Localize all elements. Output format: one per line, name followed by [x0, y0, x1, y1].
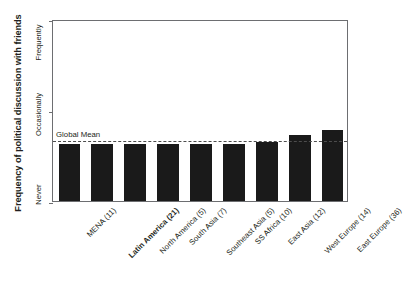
- plot-area: Global Mean: [52, 20, 348, 202]
- bar: [157, 144, 179, 201]
- x-tick-label: MENA (11): [85, 206, 118, 239]
- y-tick-label-never: Never: [34, 155, 43, 235]
- bar: [59, 144, 81, 201]
- global-mean-label: Global Mean: [55, 130, 102, 139]
- y-axis-title: Frequency of political discussion with f…: [13, 3, 23, 223]
- global-mean-line: [53, 141, 347, 142]
- bar: [289, 135, 311, 201]
- bar: [91, 144, 113, 201]
- y-tick-label-occasionally: Occasionally: [34, 75, 43, 155]
- bar: [256, 142, 278, 201]
- bar: [124, 144, 146, 201]
- bar: [190, 144, 212, 201]
- bar: [223, 144, 245, 201]
- y-tick-mark-frequently: [49, 21, 53, 22]
- y-tick-mark-never: [49, 203, 53, 204]
- y-tick-mark-occasionally: [49, 112, 53, 113]
- y-tick-label-frequently: Frequently: [34, 3, 43, 83]
